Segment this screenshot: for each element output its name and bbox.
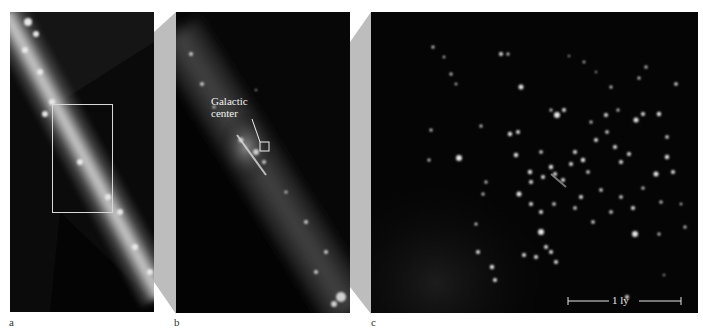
- zoom-connector-a-b: [154, 12, 176, 314]
- annotation-line-1: Galactic: [211, 95, 248, 107]
- panel-c-star-cluster: 1 ly: [371, 12, 698, 313]
- scale-bar-label: 1 ly: [612, 294, 629, 306]
- zoom-connector-b-c: [350, 12, 371, 314]
- panel-b-galactic-center: Galactic center: [176, 12, 350, 313]
- annotation-line-2: center: [211, 107, 248, 119]
- panel-label-c: c: [371, 316, 376, 328]
- galactic-center-image: [176, 12, 350, 313]
- galactic-center-label: Galactic center: [211, 95, 248, 119]
- panel-label-a: a: [9, 316, 14, 328]
- star-cluster-image: [371, 12, 698, 313]
- panel-label-b: b: [174, 316, 180, 328]
- panel-a-milky-way: [10, 12, 154, 312]
- selection-rectangle: [52, 104, 113, 213]
